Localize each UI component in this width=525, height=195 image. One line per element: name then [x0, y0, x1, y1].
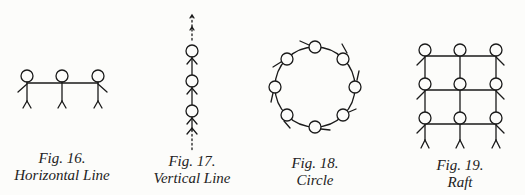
circle-diagram — [269, 41, 361, 133]
caption-fig-17: Fig. 17. Vertical Line — [127, 153, 257, 187]
figure-title: Raft — [395, 174, 525, 191]
caption-fig-19: Fig. 19. Raft — [395, 157, 525, 191]
figure-number: Fig. 19. — [395, 157, 525, 174]
horizontal-line-diagram — [18, 70, 107, 108]
figure-title: Circle — [250, 172, 380, 189]
figure-number: Fig. 18. — [250, 155, 380, 172]
caption-fig-18: Fig. 18. Circle — [250, 155, 380, 189]
person-icon — [92, 70, 107, 108]
figure-title: Horizontal Line — [0, 167, 127, 184]
figure-title: Vertical Line — [127, 170, 257, 187]
person-icon — [56, 70, 68, 108]
raft-diagram — [417, 44, 504, 148]
figure-number: Fig. 17. — [127, 153, 257, 170]
caption-fig-16: Fig. 16. Horizontal Line — [0, 150, 127, 184]
person-icon — [18, 70, 33, 108]
vertical-line-diagram — [186, 15, 198, 150]
figure-number: Fig. 16. — [0, 150, 127, 167]
